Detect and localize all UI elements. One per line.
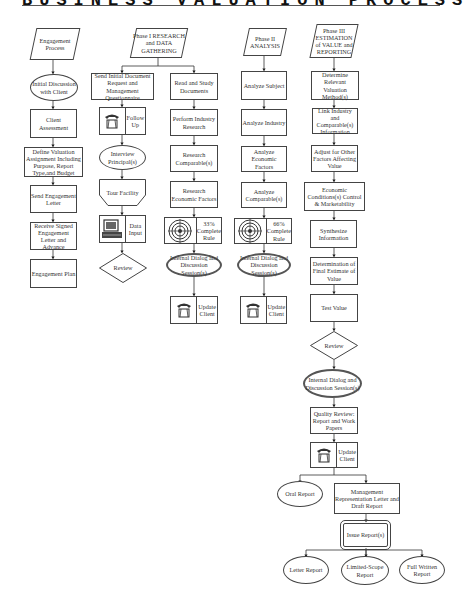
data-input-node: Data Input bbox=[99, 215, 146, 243]
internal-dialog-phase3-node: Internal Dialog and Discussion Session(s… bbox=[303, 369, 362, 398]
internal-dialog-phase2-node: Internal Dialog and Discussion Session(s… bbox=[237, 253, 291, 277]
determination-final-estimate-node: Determination of Final Estimate of Value bbox=[310, 257, 358, 285]
analyze-economic-factors-node: Analyze Economic Factors bbox=[241, 146, 287, 172]
quality-review-node: Quality Review: Report and Work Papers bbox=[310, 407, 358, 434]
letter-report-node: Letter Report bbox=[283, 556, 329, 584]
full-written-report-node: Full Written Report bbox=[399, 556, 445, 584]
read-study-documents-node: Read and Study Documents bbox=[170, 73, 218, 100]
phase2-header: Phase II ANALYSIS bbox=[246, 28, 284, 56]
review-diamond-phase3: Review bbox=[310, 331, 358, 360]
analyze-industry-node: Analyze Industry bbox=[241, 109, 287, 136]
telephone-icon bbox=[241, 297, 267, 323]
client-assessment-node: Client Assessment bbox=[30, 109, 77, 138]
computer-icon bbox=[100, 216, 126, 242]
determine-valuation-methods-node: Determine Relevant Valuation Method(s) bbox=[311, 71, 359, 100]
telephone-icon bbox=[171, 297, 197, 323]
update-client-phase3-node: Update Client bbox=[310, 442, 358, 468]
update-client-phase1-node: Update Client bbox=[170, 296, 218, 324]
link-industry-comparables-node: Link Industry and Comparable(s) Informat… bbox=[312, 108, 358, 134]
issue-reports-node: Issue Report(s) bbox=[343, 523, 388, 547]
research-economic-factors-node: Research Economic Factors bbox=[170, 181, 218, 208]
perform-industry-research-node: Perform Industry Research bbox=[170, 109, 218, 136]
internal-dialog-phase1-node: Internal Dialog and Discussion Session(s… bbox=[166, 253, 222, 277]
phase1-header: Phase I RESEARCH and DATA GATHERING bbox=[133, 28, 185, 58]
phase3-header: Phase III ESTIMATION of VALUE and REPORT… bbox=[313, 24, 355, 58]
send-initial-document-request-node: Send Initial Document Request and Manage… bbox=[91, 73, 154, 100]
target-icon bbox=[165, 218, 197, 243]
define-valuation-assignment-node: Define Valuation Assignment Including Pu… bbox=[24, 147, 83, 177]
interview-principals-node: Interview Principal(s) bbox=[99, 145, 146, 170]
initial-discussion-node: Initial Discussion with Client bbox=[30, 74, 78, 101]
complete-rule-33-node: 33% Complete Rule bbox=[164, 217, 222, 244]
oral-report-node: Oral Report bbox=[277, 481, 323, 507]
management-representation-node: Management Representation Letter and Dra… bbox=[334, 483, 400, 514]
receive-signed-letter-node: Receive Signed Engagement Letter and Adv… bbox=[30, 222, 77, 250]
review-diamond-phase1: Review bbox=[99, 253, 147, 283]
send-engagement-letter-node: Send Engagement Letter bbox=[30, 185, 77, 213]
engagement-plan-node: Engagement Plan bbox=[30, 259, 77, 288]
target-icon bbox=[235, 219, 267, 243]
synthesize-information-node: Synthesize Information bbox=[310, 220, 357, 248]
follow-up-node: Follow Up bbox=[99, 107, 146, 135]
tour-facility-node: Tour Facility bbox=[99, 179, 146, 206]
complete-rule-66-node: 66% Complete Rule bbox=[234, 218, 292, 244]
telephone-icon bbox=[100, 108, 126, 134]
limited-scope-report-node: Limited-Scope Report bbox=[341, 556, 389, 585]
test-value-node: Test Value bbox=[310, 294, 358, 322]
research-comparables-node: Research Comparable(s) bbox=[170, 145, 218, 172]
engagement-process-header: Engagement Process bbox=[33, 28, 77, 60]
telephone-icon bbox=[311, 443, 337, 467]
update-client-phase2-node: Update Client bbox=[240, 296, 287, 324]
adjust-other-factors-node: Adjust for Other Factors Affecting Value bbox=[311, 145, 358, 172]
analyze-comparables-node: Analyze Comparable(s) bbox=[241, 182, 287, 208]
economic-conditions-node: Economic Conditions(s) Control & Marketa… bbox=[304, 182, 365, 211]
analyze-subject-node: Analyze Subject bbox=[241, 71, 287, 100]
